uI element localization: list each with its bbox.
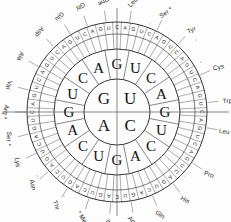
ring3-divider xyxy=(194,99,206,101)
leader-line xyxy=(110,203,111,214)
leader-line xyxy=(130,11,132,22)
third-base-u-43: U xyxy=(39,149,46,155)
second-base-g-12: G xyxy=(64,104,75,120)
ring3-inner-divider xyxy=(44,133,58,138)
ring3-inner-divider xyxy=(120,175,121,190)
second-base-u-5: U xyxy=(156,122,167,138)
ring3-inner-divider xyxy=(164,154,175,164)
ring3-inner-divider xyxy=(138,171,143,185)
third-base-u-59: U xyxy=(74,34,80,41)
third-base-a-57: A xyxy=(60,43,67,50)
third-base-a-49: A xyxy=(30,101,36,106)
scan-speck xyxy=(149,23,151,25)
third-base-u-63: U xyxy=(107,25,112,31)
third-base-a-41: A xyxy=(48,162,55,169)
amino-acid-label-gly-22: Gly xyxy=(74,0,87,13)
ring3-inner-divider xyxy=(65,54,75,65)
genetic-code-wheel: GUCAGUCAGUCAGUCAGUCACAGUCAGUCAGUCAGUCAGU… xyxy=(0,0,231,222)
ring3-inner-divider xyxy=(180,108,195,109)
third-base-u-23: U xyxy=(179,162,186,169)
third-base-u-39: U xyxy=(60,174,67,181)
leader-line xyxy=(40,172,48,179)
ring3-divider xyxy=(195,116,207,117)
ring3-inner-divider xyxy=(180,115,195,116)
ring3-inner-divider xyxy=(168,66,180,75)
second-base-c-2: C xyxy=(146,70,156,86)
leader-line xyxy=(157,20,162,30)
first-base-c: C xyxy=(124,116,135,135)
third-base-c-28: C xyxy=(146,187,152,194)
ring3-divider xyxy=(113,190,114,202)
scan-speck xyxy=(200,61,202,63)
third-base-a-29: A xyxy=(139,190,145,197)
ring3-inner-divider xyxy=(41,127,56,131)
third-base-a-61: A xyxy=(90,28,96,35)
third-base-c-36: C xyxy=(82,187,88,194)
third-base-a-13: A xyxy=(195,85,202,91)
third-base-a-33: A xyxy=(106,193,111,199)
third-base-a-17: A xyxy=(198,118,204,123)
ring3-inner-divider xyxy=(39,108,54,109)
ring3-inner-divider xyxy=(40,101,55,103)
leader-line xyxy=(46,39,54,47)
leader-line xyxy=(207,128,218,130)
ring3-inner-divider xyxy=(39,115,54,116)
ring3-inner-divider xyxy=(174,79,188,85)
ring3-divider xyxy=(193,131,205,134)
ring3-inner-divider xyxy=(46,79,60,85)
ring3-inner-divider xyxy=(164,60,175,70)
third-base-c-40: C xyxy=(54,168,61,175)
amino-acid-label-trp-5: Trp xyxy=(223,97,231,106)
leader-line xyxy=(64,25,70,34)
third-base-g-26: G xyxy=(161,179,168,186)
third-base-g-34: G xyxy=(98,192,103,199)
leader-line xyxy=(84,16,88,26)
ring3-inner-divider xyxy=(159,54,169,65)
ring3-divider xyxy=(95,188,98,200)
ring3-divider xyxy=(121,190,122,202)
third-base-g-14: G xyxy=(197,93,204,98)
ring3-inner-divider xyxy=(84,41,90,55)
ring3-inner-divider xyxy=(155,49,164,61)
amino-acid-label-ala-19: Ala xyxy=(16,51,26,63)
third-base-a-45: A xyxy=(33,134,40,140)
amino-acid-label-arg-10: Arg * xyxy=(126,214,142,222)
ring3-inner-divider xyxy=(106,174,108,189)
third-base-g-18: G xyxy=(197,126,204,131)
third-base-g-62: G xyxy=(98,26,103,33)
ring2-divider xyxy=(105,144,111,173)
leader-line xyxy=(192,163,201,169)
third-base-u-11: U xyxy=(188,69,195,75)
amino-acid-label-gln-9: Gln xyxy=(154,208,167,220)
ring3-divider xyxy=(30,90,42,93)
second-base-g-0: G xyxy=(112,56,123,72)
ring3-inner-divider xyxy=(126,174,128,189)
ring3-inner-divider xyxy=(65,159,75,170)
ring3-inner-divider xyxy=(132,173,136,188)
first-base-g: G xyxy=(98,89,110,108)
third-base-g-30: G xyxy=(131,192,136,199)
scan-speck xyxy=(36,175,38,177)
third-base-u-15: U xyxy=(198,102,204,107)
second-base-c-6: C xyxy=(146,138,156,154)
ring3-inner-divider xyxy=(171,72,184,80)
amino-acid-label-pro-7: Pro xyxy=(203,169,215,179)
amino-acid-label-tyr-3: Tyr xyxy=(186,24,198,35)
third-base-a-25: A xyxy=(167,174,174,181)
third-base-g-6: G xyxy=(161,38,168,45)
second-base-g-4: G xyxy=(160,104,171,120)
ring3-inner-divider xyxy=(159,159,169,170)
second-base-u-9: U xyxy=(93,148,104,164)
third-base-c-16: C xyxy=(199,110,205,114)
ring3-divider xyxy=(195,108,207,109)
ring3-inner-divider xyxy=(149,45,157,58)
third-base-u-19: U xyxy=(194,134,201,140)
leader-line xyxy=(153,196,157,206)
ring3-divider xyxy=(121,22,122,34)
scan-speck xyxy=(39,33,41,35)
ring3-inner-divider xyxy=(149,166,157,179)
third-base-u-47: U xyxy=(30,118,36,123)
ring3-inner-divider xyxy=(44,86,58,91)
ring3-divider xyxy=(104,189,106,201)
ring3-inner-divider xyxy=(168,150,180,159)
